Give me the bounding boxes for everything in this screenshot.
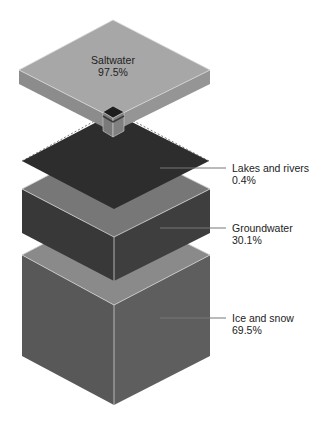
ice-label-value: 69.5% bbox=[232, 324, 294, 336]
freshwater-diagram bbox=[0, 0, 336, 425]
lakes-label: Lakes and rivers 0.4% bbox=[232, 162, 309, 186]
groundwater-label: Groundwater 30.1% bbox=[232, 222, 293, 246]
groundwater-label-name: Groundwater bbox=[232, 222, 293, 234]
ice-label: Ice and snow 69.5% bbox=[232, 312, 294, 336]
saltwater-label-value: 97.5% bbox=[78, 66, 148, 78]
freshwater-cube bbox=[103, 106, 124, 137]
lakes-label-value: 0.4% bbox=[232, 174, 309, 186]
groundwater-label-value: 30.1% bbox=[232, 234, 293, 246]
saltwater-label: Saltwater 97.5% bbox=[78, 54, 148, 78]
saltwater-label-name: Saltwater bbox=[78, 54, 148, 66]
ice-label-name: Ice and snow bbox=[232, 312, 294, 324]
lakes-label-name: Lakes and rivers bbox=[232, 162, 309, 174]
